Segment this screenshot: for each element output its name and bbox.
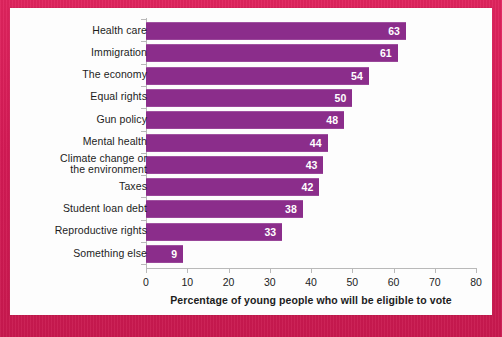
category-label-line: Health care <box>0 25 147 36</box>
bar[interactable]: 44 <box>146 134 328 152</box>
category-label-line: Gun policy <box>0 114 147 125</box>
category-label-line: Immigration <box>0 47 147 58</box>
category-label-line: Something else <box>0 248 147 259</box>
y-axis-tick <box>141 175 146 176</box>
bar[interactable]: 33 <box>146 223 282 241</box>
x-axis-tick-label: 60 <box>388 276 400 288</box>
bar-value-label: 50 <box>335 89 347 107</box>
bar[interactable]: 38 <box>146 200 303 218</box>
category-label-line: Reproductive rights <box>0 225 147 236</box>
bar-value-label: 43 <box>306 156 318 174</box>
bar[interactable]: 50 <box>146 89 352 107</box>
category-label-line: Taxes <box>0 181 147 192</box>
bar-value-label: 9 <box>171 245 177 263</box>
x-axis-tick <box>352 268 353 273</box>
category-label-line: Mental health <box>0 136 147 147</box>
category-label: Student loan debt <box>0 203 147 214</box>
category-label: Immigration <box>0 47 147 58</box>
y-axis-tick <box>141 197 146 198</box>
x-axis-tick <box>270 268 271 273</box>
category-label: Mental health <box>0 136 147 147</box>
x-axis-tick-label: 50 <box>346 276 358 288</box>
bar[interactable]: 61 <box>146 44 398 62</box>
x-axis-tick <box>476 268 477 273</box>
bar[interactable]: 42 <box>146 178 319 196</box>
bar-chart-plot-area: Percentage of young people who will be e… <box>10 8 492 315</box>
y-axis-tick <box>141 86 146 87</box>
y-axis-tick <box>141 108 146 109</box>
x-axis-tick <box>394 268 395 273</box>
category-label: Health care <box>0 25 147 36</box>
category-label: Taxes <box>0 181 147 192</box>
bar[interactable]: 54 <box>146 67 369 85</box>
x-axis-tick-label: 10 <box>181 276 193 288</box>
bar[interactable]: 63 <box>146 22 406 40</box>
x-axis-tick-label: 30 <box>264 276 276 288</box>
x-axis-title: Percentage of young people who will be e… <box>146 294 476 306</box>
bar[interactable]: 43 <box>146 156 323 174</box>
category-label-line: Equal rights <box>0 91 147 102</box>
x-axis-tick-label: 40 <box>305 276 317 288</box>
bar-value-label: 63 <box>388 22 400 40</box>
y-axis-tick <box>141 264 146 265</box>
category-label: Gun policy <box>0 114 147 125</box>
y-axis-tick <box>141 19 146 20</box>
category-label-line: the environment <box>0 164 147 175</box>
y-axis-tick <box>141 41 146 42</box>
bar-value-label: 54 <box>351 67 363 85</box>
x-axis-tick <box>229 268 230 273</box>
x-axis-tick-label: 80 <box>470 276 482 288</box>
bar-value-label: 33 <box>264 223 276 241</box>
category-label-line: The economy <box>0 69 147 80</box>
x-axis-tick-label: 70 <box>429 276 441 288</box>
x-axis-tick <box>146 268 147 273</box>
y-axis-tick <box>141 220 146 221</box>
category-label: Climate change orthe environment <box>0 153 147 175</box>
chart-panel: Percentage of young people who will be e… <box>10 8 492 315</box>
x-axis-tick-label: 0 <box>143 276 149 288</box>
category-label: Equal rights <box>0 91 147 102</box>
bar-value-label: 44 <box>310 134 322 152</box>
bar-value-label: 48 <box>326 111 338 129</box>
y-axis-tick <box>141 131 146 132</box>
category-label: Reproductive rights <box>0 225 147 236</box>
category-label: The economy <box>0 69 147 80</box>
bar-value-label: 42 <box>302 178 314 196</box>
category-label: Something else <box>0 248 147 259</box>
bar[interactable]: 9 <box>146 245 183 263</box>
bar-value-label: 61 <box>380 44 392 62</box>
category-label-line: Student loan debt <box>0 203 147 214</box>
y-axis-tick <box>141 64 146 65</box>
x-axis-tick-label: 20 <box>223 276 235 288</box>
y-axis-tick <box>141 242 146 243</box>
bar-value-label: 38 <box>285 200 297 218</box>
bar[interactable]: 48 <box>146 111 344 129</box>
x-axis-tick <box>435 268 436 273</box>
x-axis-tick <box>187 268 188 273</box>
x-axis-tick <box>311 268 312 273</box>
